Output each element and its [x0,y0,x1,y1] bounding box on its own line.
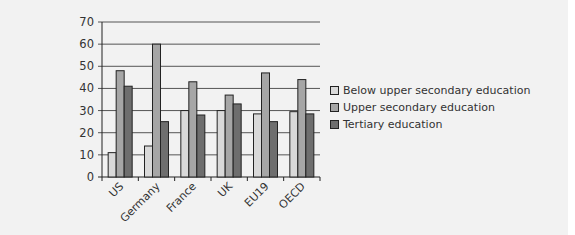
y-tick-label: 30 [79,104,94,118]
x-category-label: EU19 [242,180,272,210]
bar [189,82,197,177]
legend-swatch-icon [330,120,339,129]
bar [306,114,314,177]
legend-swatch-icon [330,103,339,112]
bar [108,153,116,177]
bar [225,95,233,177]
bar [298,80,306,177]
legend-item-upper-secondary: Upper secondary education [330,99,530,116]
legend: Below upper secondary education Upper se… [330,82,530,133]
y-tick-label: 10 [79,148,94,162]
bar [124,86,132,177]
x-category-label: Germany [118,180,163,225]
legend-label: Tertiary education [343,118,442,131]
bar [254,114,262,177]
legend-label: Below upper secondary education [343,84,530,97]
legend-item-tertiary: Tertiary education [330,116,530,133]
x-category-label: UK [215,179,236,200]
x-category-label: OECD [276,180,308,212]
y-tick-label: 0 [87,170,94,184]
bar [217,111,225,177]
y-tick-label: 50 [79,59,94,73]
y-tick-label: 60 [79,37,94,51]
bar [233,104,241,177]
y-tick-label: 20 [79,126,94,140]
bar [116,71,124,177]
legend-label: Upper secondary education [343,101,495,114]
bar [161,122,169,177]
bar [290,112,298,177]
bar [270,122,278,177]
y-tick-label: 70 [79,15,94,29]
bar [262,73,270,177]
bar [153,44,161,177]
legend-swatch-icon [330,86,339,95]
bar [181,111,189,177]
x-category-label: France [164,180,199,215]
bar [197,115,205,177]
y-tick-label: 40 [79,81,94,95]
bar [145,146,153,177]
legend-item-below-upper-secondary: Below upper secondary education [330,82,530,99]
x-category-label: US [106,180,126,200]
